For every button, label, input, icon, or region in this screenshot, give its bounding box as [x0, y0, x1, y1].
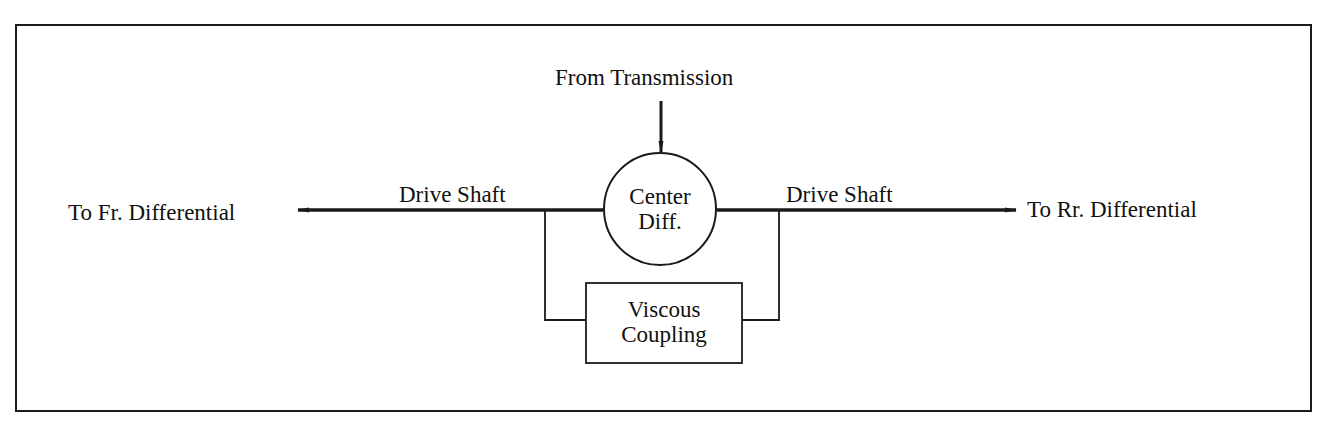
center-diff-line1: Center [604, 184, 716, 209]
left-drive-shaft-label: Drive Shaft [399, 183, 506, 206]
right-coupling-branch [742, 210, 779, 320]
viscous-coupling-label: Viscous Coupling [586, 297, 742, 347]
to-rear-differential-label: To Rr. Differential [1027, 198, 1197, 221]
right-drive-shaft-label: Drive Shaft [786, 183, 893, 206]
center-diff-line2: Diff. [604, 209, 716, 234]
viscous-coupling-line2: Coupling [586, 322, 742, 347]
viscous-coupling-line1: Viscous [586, 297, 742, 322]
to-front-differential-label: To Fr. Differential [68, 201, 235, 224]
from-transmission-label: From Transmission [555, 66, 733, 89]
left-coupling-branch [545, 210, 586, 320]
center-diff-label: Center Diff. [604, 184, 716, 234]
